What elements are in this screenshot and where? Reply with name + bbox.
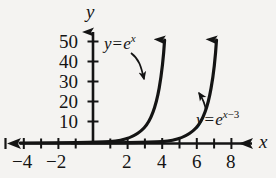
pointer-to-curve-1	[131, 53, 144, 79]
y-tick-label-40: 40	[34, 52, 78, 71]
y-axis-label: y	[86, 2, 94, 21]
y-tick-label-10: 10	[34, 112, 78, 131]
exponential-graph-figure: y x 50 40 30 20 10 −4 −2 2 4 6 8 y=ex y=…	[0, 0, 276, 178]
x-tick-label-minus-4: −4	[12, 152, 32, 171]
x-tick-label-6: 6	[192, 152, 202, 171]
y-tick-label-50: 50	[34, 32, 78, 51]
curve-1-equals: =	[112, 34, 124, 53]
x-tick-label-minus-2: −2	[46, 152, 66, 171]
curve-2-exponent-offset: −3	[228, 108, 240, 120]
curve-label-exp-x-minus-3: y=ex−3	[196, 111, 239, 128]
curve-2-lhs: y	[196, 110, 204, 129]
curve-1-lhs: y	[104, 34, 112, 53]
curve-2-equals: =	[204, 110, 216, 129]
curve-1-exponent: x	[131, 32, 136, 44]
y-axis	[88, 32, 99, 144]
curve-label-exp-x: y=ex	[104, 35, 136, 52]
y-tick-label-20: 20	[34, 92, 78, 111]
x-tick-label-2: 2	[122, 152, 132, 171]
pointer-to-curve-2	[199, 93, 206, 111]
x-tick-label-4: 4	[157, 152, 167, 171]
curve-2-base: e	[215, 110, 223, 129]
x-axis-label: x	[259, 132, 267, 151]
curve-1-base: e	[123, 34, 131, 53]
y-tick-label-30: 30	[34, 72, 78, 91]
x-tick-label-8: 8	[226, 152, 236, 171]
